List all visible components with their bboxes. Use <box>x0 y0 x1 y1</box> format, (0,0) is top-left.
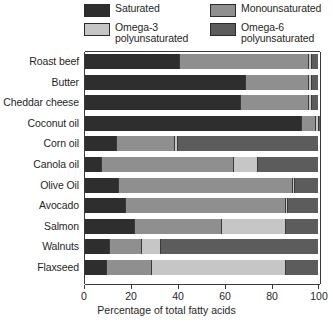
bar-segment-saturated <box>85 116 301 131</box>
x-axis-tick-label: 40 <box>158 290 198 302</box>
y-axis-label: Roast beef <box>0 56 79 67</box>
bar-segment-mono <box>125 198 285 213</box>
bar-segment-omega6 <box>285 219 318 234</box>
plot-top-border <box>85 51 320 52</box>
bar-segment-saturated <box>85 239 109 254</box>
legend-label-omega-6: Omega-6 polyunsaturated <box>241 22 314 43</box>
bar-row <box>85 136 320 151</box>
y-axis-label: Butter <box>0 77 79 88</box>
legend-swatch-omega-6 <box>210 23 236 36</box>
bar-row <box>85 219 320 234</box>
bar-segment-omega6 <box>311 75 318 90</box>
bar-segment-omega6 <box>177 136 318 151</box>
legend-entry-omega-3: Omega-3 polyunsaturated <box>84 22 188 43</box>
x-axis-tick-label: 60 <box>205 290 245 302</box>
bar-segment-mono <box>101 157 233 172</box>
bar-segment-omega6 <box>318 116 320 131</box>
bar-segment-mono <box>301 116 315 131</box>
bar-segment-mono <box>106 260 151 275</box>
bar-segment-omega6 <box>160 239 317 254</box>
bar-segment-saturated <box>85 75 245 90</box>
x-axis-tick-label: 20 <box>111 290 151 302</box>
bar-segment-mono <box>116 136 175 151</box>
x-axis-tick-label: 0 <box>64 290 104 302</box>
bar-segment-saturated <box>85 178 118 193</box>
bar-segment-omega3 <box>141 239 160 254</box>
bar-segment-saturated <box>85 198 125 213</box>
x-axis-tick <box>318 285 319 289</box>
bar-segment-saturated <box>85 136 116 151</box>
x-axis-tick <box>84 285 85 289</box>
bar-row <box>85 75 320 90</box>
bar-segment-omega6 <box>294 178 318 193</box>
y-axis-label: Olive Oil <box>0 180 79 191</box>
bar-segment-omega3 <box>221 219 284 234</box>
bar-segment-saturated <box>85 219 134 234</box>
y-axis-label: Cheddar cheese <box>0 97 79 108</box>
y-axis-label: Coconut oil <box>0 118 79 129</box>
chart-legend: Saturated Monounsaturated Omega-3 polyun… <box>84 3 330 47</box>
bar-row <box>85 260 320 275</box>
bar-segment-mono <box>118 178 292 193</box>
x-axis-title: Percentage of total fatty acids <box>0 304 333 316</box>
bar-segment-omega6 <box>287 198 318 213</box>
bar-row <box>85 198 320 213</box>
x-axis-tick-label: 80 <box>252 290 292 302</box>
bar-segment-omega3 <box>151 260 285 275</box>
y-axis-label: Canola oil <box>0 159 79 170</box>
bar-segment-mono <box>240 95 308 110</box>
x-axis-tick <box>272 285 273 289</box>
bar-row <box>85 116 320 131</box>
y-axis-label: Flaxseed <box>0 262 79 273</box>
bar-row <box>85 54 320 69</box>
legend-entry-monounsaturated: Monounsaturated <box>210 3 321 17</box>
bar-segment-saturated <box>85 54 179 69</box>
x-axis-tick-label: 100 <box>299 290 333 302</box>
y-axis-label: Salmon <box>0 221 79 232</box>
bar-segment-mono <box>134 219 221 234</box>
bar-segment-omega6 <box>257 157 318 172</box>
bar-row <box>85 95 320 110</box>
legend-swatch-saturated <box>84 4 110 17</box>
x-axis-tick <box>178 285 179 289</box>
bar-segment-saturated <box>85 95 240 110</box>
bar-segment-mono <box>109 239 142 254</box>
bar-segment-omega6 <box>311 95 318 110</box>
plot-area <box>84 52 321 284</box>
stacked-bar-chart-figure: Saturated Monounsaturated Omega-3 polyun… <box>0 0 333 322</box>
bar-row <box>85 239 320 254</box>
legend-swatch-monounsaturated <box>210 4 236 17</box>
legend-label-omega-3: Omega-3 polyunsaturated <box>115 22 188 43</box>
bar-row <box>85 157 320 172</box>
bar-segment-saturated <box>85 157 101 172</box>
legend-entry-omega-6: Omega-6 polyunsaturated <box>210 22 314 43</box>
bar-segment-saturated <box>85 260 106 275</box>
bar-row <box>85 178 320 193</box>
y-axis-label: Walnuts <box>0 241 79 252</box>
y-axis-label: Corn oil <box>0 138 79 149</box>
x-axis-tick <box>225 285 226 289</box>
bar-segment-omega3 <box>233 157 257 172</box>
bar-segment-mono <box>245 75 308 90</box>
legend-entry-saturated: Saturated <box>84 3 160 17</box>
bar-segment-omega6 <box>311 54 318 69</box>
legend-label-saturated: Saturated <box>115 3 160 14</box>
legend-swatch-omega-3 <box>84 23 110 36</box>
bar-segment-mono <box>179 54 308 69</box>
y-axis-label: Avocado <box>0 200 79 211</box>
x-axis-tick <box>131 285 132 289</box>
x-axis: 020406080100 <box>84 285 319 305</box>
bar-segment-omega6 <box>285 260 318 275</box>
legend-label-monounsaturated: Monounsaturated <box>241 3 321 14</box>
